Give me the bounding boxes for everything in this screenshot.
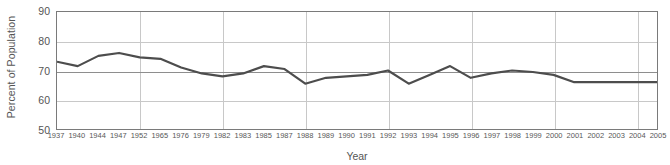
y-axis-title: Percent of Population — [0, 0, 22, 134]
x-axis-tick-label: 1997 — [484, 131, 501, 140]
x-axis-tick-label: 1965 — [151, 131, 168, 140]
y-axis-tick-label: 70 — [38, 65, 50, 77]
x-axis-tick-label: 1979 — [193, 131, 210, 140]
x-axis-tick-label: 1976 — [172, 131, 189, 140]
y-axis-title-text: Percent of Population — [5, 16, 17, 119]
x-axis-tick-label: 1982 — [214, 131, 231, 140]
x-axis-tick-label: 2002 — [587, 131, 604, 140]
x-axis-tick-label: 1999 — [525, 131, 542, 140]
x-axis-tick-label: 1988 — [297, 131, 314, 140]
x-axis-tick-label: 1983 — [234, 131, 251, 140]
x-axis-tick-label: 1996 — [463, 131, 480, 140]
x-axis-tick-label: 1940 — [68, 131, 85, 140]
x-axis-tick-label: 1987 — [276, 131, 293, 140]
x-axis-tick-label: 1985 — [255, 131, 272, 140]
x-axis-tick-label: 1989 — [318, 131, 335, 140]
y-axis-tick-label: 80 — [38, 35, 50, 47]
x-axis-tick-label: 2004 — [629, 131, 646, 140]
x-axis-tick-label: 1937 — [48, 131, 65, 140]
x-axis-tick-labels: 1937194019441947195219651976197919821983… — [56, 131, 658, 144]
x-axis-tick-label: 1944 — [89, 131, 106, 140]
line-chart: Percent of Population 5060708090 1937194… — [0, 0, 670, 165]
data-series-line — [57, 12, 657, 129]
x-axis-tick-label: 2001 — [567, 131, 584, 140]
x-axis-tick-label: 2003 — [608, 131, 625, 140]
x-axis-tick-label: 1952 — [131, 131, 148, 140]
x-axis-tick-label: 2000 — [546, 131, 563, 140]
y-axis-tick-labels: 5060708090 — [22, 0, 54, 140]
plot-area — [56, 11, 658, 130]
y-axis-tick-label: 90 — [38, 5, 50, 17]
x-axis-tick-label: 2005 — [650, 131, 667, 140]
x-axis-tick-label: 1993 — [401, 131, 418, 140]
x-axis-tick-label: 1991 — [359, 131, 376, 140]
x-axis-title: Year — [56, 146, 658, 162]
y-axis-tick-label: 60 — [38, 94, 50, 106]
x-axis-tick-label: 1990 — [338, 131, 355, 140]
x-axis-title-text: Year — [346, 150, 367, 162]
x-axis-tick-label: 1998 — [504, 131, 521, 140]
x-axis-tick-label: 1995 — [442, 131, 459, 140]
x-axis-tick-label: 1947 — [110, 131, 127, 140]
x-axis-tick-label: 1994 — [421, 131, 438, 140]
x-axis-tick-label: 1992 — [380, 131, 397, 140]
